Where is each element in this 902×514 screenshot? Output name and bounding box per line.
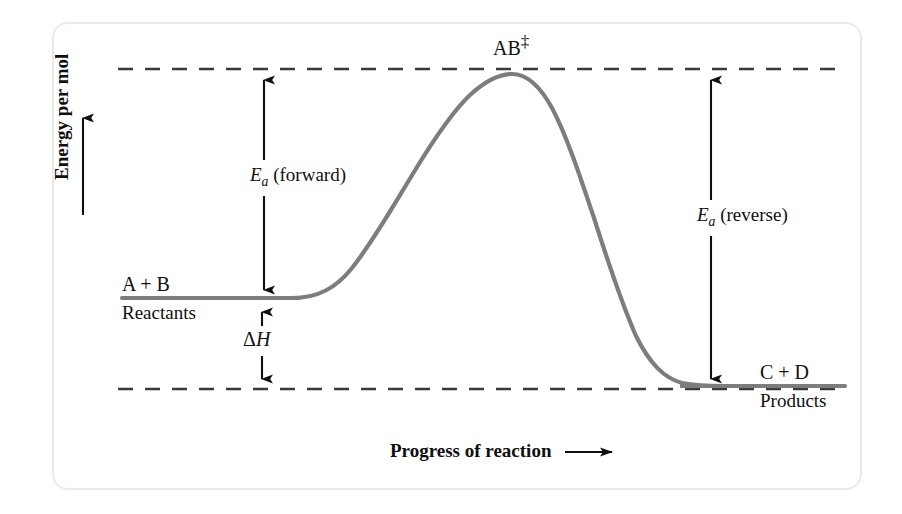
reaction-energy-curve <box>122 74 845 386</box>
ea-forward-label: Ea (forward) <box>250 165 346 184</box>
ea-reverse-qualifier: (reverse) <box>715 204 787 225</box>
delta-symbol: Δ <box>243 328 256 350</box>
double-dagger-icon: ‡ <box>521 32 530 51</box>
delta-h-label: ΔH <box>243 329 270 349</box>
ea-forward-symbol: E <box>250 164 262 185</box>
ea-reverse-label: Ea (reverse) <box>697 205 788 224</box>
x-axis-title: Progress of reaction <box>390 441 551 460</box>
ea-forward-qualifier: (forward) <box>268 164 346 185</box>
products-formula-label: C + D <box>760 362 809 382</box>
reactants-formula-label: A + B <box>122 274 170 294</box>
enthalpy-symbol: H <box>256 328 270 350</box>
products-word-label: Products <box>760 391 827 410</box>
transition-state-label: AB‡ <box>493 38 529 58</box>
transition-state-base-text: AB <box>493 37 521 59</box>
y-axis-title-text: Energy per mol <box>52 150 71 180</box>
y-axis-title: Energy per mol <box>52 150 71 180</box>
figure-page: Energy per mol Progress of reaction A + … <box>0 0 902 514</box>
energy-profile-plot <box>0 0 902 514</box>
ea-reverse-symbol: E <box>697 204 709 225</box>
reactants-word-label: Reactants <box>122 303 196 322</box>
